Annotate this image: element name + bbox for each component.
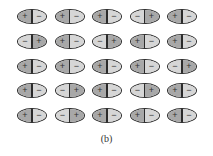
dipole-divider: [144, 10, 145, 23]
plus-sign-icon: +: [145, 10, 159, 23]
dipole-minus-left: −+: [92, 34, 122, 49]
dipole-divider: [181, 109, 182, 122]
plus-sign-icon: +: [131, 35, 145, 48]
minus-sign-icon: −: [168, 60, 182, 73]
dipole-plus-left: +−: [92, 108, 122, 123]
dipole-minus-left: −+: [55, 83, 85, 98]
dipole-divider: [144, 109, 145, 122]
plus-sign-icon: +: [168, 10, 182, 23]
dipole-divider: [69, 60, 70, 73]
minus-sign-icon: −: [70, 10, 84, 23]
minus-sign-icon: −: [131, 84, 145, 97]
minus-sign-icon: −: [70, 35, 84, 48]
dipole-plus-left: +−: [92, 83, 122, 98]
plus-sign-icon: +: [56, 10, 70, 23]
dipole-divider: [31, 109, 32, 122]
dipole-divider: [69, 84, 70, 97]
minus-sign-icon: −: [107, 109, 121, 122]
minus-sign-icon: −: [182, 109, 196, 122]
plus-sign-icon: +: [168, 109, 182, 122]
dipole-divider: [181, 10, 182, 23]
minus-sign-icon: −: [145, 60, 159, 73]
dipole-divider: [144, 35, 145, 48]
dipole-plus-left: +−: [92, 59, 122, 74]
dipole-divider: [181, 60, 182, 73]
plus-sign-icon: +: [32, 35, 46, 48]
dipole-divider: [31, 60, 32, 73]
plus-sign-icon: +: [145, 84, 159, 97]
minus-sign-icon: −: [93, 35, 107, 48]
plus-sign-icon: +: [93, 84, 107, 97]
minus-sign-icon: −: [32, 60, 46, 73]
dipole-divider: [69, 109, 70, 122]
minus-sign-icon: −: [32, 10, 46, 23]
dipole-divider: [106, 109, 107, 122]
plus-sign-icon: +: [93, 10, 107, 23]
minus-sign-icon: −: [32, 84, 46, 97]
plus-sign-icon: +: [18, 109, 32, 122]
minus-sign-icon: −: [107, 84, 121, 97]
plus-sign-icon: +: [131, 109, 145, 122]
dipole-divider: [69, 10, 70, 23]
minus-sign-icon: −: [182, 10, 196, 23]
dipole-plus-left: +−: [17, 108, 47, 123]
dipole-divider: [31, 35, 32, 48]
dipole-plus-left: +−: [17, 83, 47, 98]
dipole-minus-left: −+: [130, 9, 160, 24]
dipole-divider: [144, 84, 145, 97]
dipole-minus-left: −+: [17, 34, 47, 49]
minus-sign-icon: −: [182, 84, 196, 97]
dipole-plus-left: +−: [130, 59, 160, 74]
plus-sign-icon: +: [56, 60, 70, 73]
plus-sign-icon: +: [182, 60, 196, 73]
plus-sign-icon: +: [18, 84, 32, 97]
dipole-plus-left: +−: [167, 108, 197, 123]
plus-sign-icon: +: [70, 84, 84, 97]
plus-sign-icon: +: [93, 60, 107, 73]
minus-sign-icon: −: [18, 35, 32, 48]
dipole-divider: [181, 84, 182, 97]
dipole-minus-left: −+: [130, 83, 160, 98]
dipole-divider: [106, 10, 107, 23]
plus-sign-icon: +: [93, 109, 107, 122]
plus-sign-icon: +: [131, 60, 145, 73]
plus-sign-icon: +: [168, 84, 182, 97]
dipole-divider: [106, 60, 107, 73]
plus-sign-icon: +: [107, 35, 121, 48]
dipole-minus-left: −+: [55, 108, 85, 123]
plus-sign-icon: +: [70, 109, 84, 122]
minus-sign-icon: −: [56, 84, 70, 97]
minus-sign-icon: −: [145, 35, 159, 48]
minus-sign-icon: −: [107, 10, 121, 23]
dipole-plus-left: +−: [55, 34, 85, 49]
minus-sign-icon: −: [131, 10, 145, 23]
plus-sign-icon: +: [168, 35, 182, 48]
dipole-minus-left: −+: [167, 59, 197, 74]
minus-sign-icon: −: [182, 35, 196, 48]
dipole-divider: [144, 60, 145, 73]
dipole-plus-left: +−: [167, 34, 197, 49]
minus-sign-icon: −: [70, 60, 84, 73]
dipole-plus-left: +−: [17, 9, 47, 24]
dipole-plus-left: +−: [55, 59, 85, 74]
plus-sign-icon: +: [18, 60, 32, 73]
dipole-divider: [106, 84, 107, 97]
minus-sign-icon: −: [107, 60, 121, 73]
minus-sign-icon: −: [145, 109, 159, 122]
dipole-plus-left: +−: [130, 34, 160, 49]
dipole-plus-left: +−: [17, 59, 47, 74]
figure-caption: (b): [0, 133, 213, 144]
dipole-plus-left: +−: [92, 9, 122, 24]
dipole-divider: [181, 35, 182, 48]
minus-sign-icon: −: [32, 109, 46, 122]
dipole-plus-left: +−: [167, 83, 197, 98]
minus-sign-icon: −: [56, 109, 70, 122]
plus-sign-icon: +: [56, 35, 70, 48]
dipole-divider: [106, 35, 107, 48]
dipole-plus-left: +−: [55, 9, 85, 24]
dipole-divider: [31, 84, 32, 97]
dipole-plus-left: +−: [130, 108, 160, 123]
plus-sign-icon: +: [18, 10, 32, 23]
dipole-plus-left: +−: [167, 9, 197, 24]
dipole-divider: [69, 35, 70, 48]
